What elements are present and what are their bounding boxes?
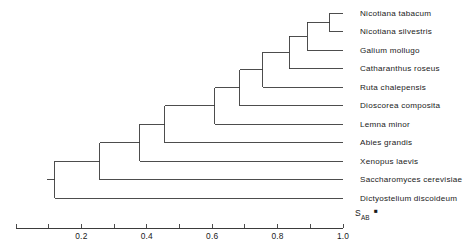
tip-label: Nicotiana tabacum	[360, 9, 431, 18]
axis-tick-label: 1.0	[337, 231, 349, 241]
tip-label: Catharanthus roseus	[360, 64, 440, 73]
tip-label: Abies grandis	[360, 138, 412, 147]
axis-tick-label: 0.2	[75, 231, 87, 241]
tip-label: Ruta chalepensis	[360, 83, 426, 92]
axis-tick-label: 0.8	[271, 231, 283, 241]
tip-label-group: Nicotiana tabacumNicotiana silvestrisGal…	[360, 9, 463, 203]
tip-label: Nicotiana silvestris	[360, 27, 432, 36]
tip-label: Saccharomyces cerevisiae	[360, 175, 463, 184]
tree-branches	[47, 13, 343, 198]
tip-label: Lemna minor	[360, 120, 410, 129]
tip-label: Dictyostelium discoideum	[360, 194, 457, 203]
tip-label: Galium mollugo	[360, 46, 420, 55]
axis-symbol-subscript: AB	[361, 214, 370, 221]
phylogenetic-tree-figure: Nicotiana tabacumNicotiana silvestrisGal…	[0, 0, 471, 251]
tip-label: Dioscorea composita	[360, 101, 441, 110]
axis-marker-square: ■	[374, 207, 378, 214]
axis-tick-label-group: 0.20.40.60.81.0	[75, 231, 349, 241]
axis-tick-label: 0.6	[206, 231, 218, 241]
similarity-axis: 0.20.40.60.81.0 S AB ■	[16, 207, 378, 241]
axis-tick-label: 0.4	[141, 231, 153, 241]
axis-line	[16, 224, 343, 229]
tip-label: Xenopus laevis	[360, 157, 418, 166]
